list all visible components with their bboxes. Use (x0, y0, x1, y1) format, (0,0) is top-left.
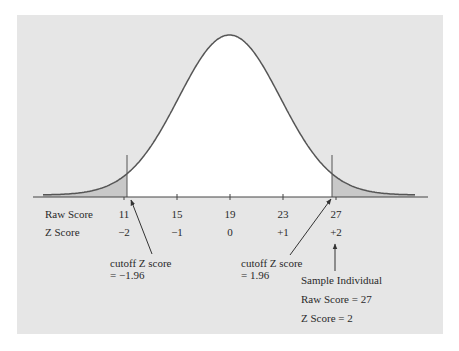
raw-tick-27: 27 (331, 208, 343, 220)
sample-z-score: Z Score = 2 (301, 312, 353, 324)
sample-raw-score: Raw Score = 27 (301, 293, 372, 305)
z-tick-0: 0 (227, 226, 233, 238)
raw-tick-19: 19 (225, 208, 237, 220)
z-score-row-label: Z Score (45, 226, 80, 238)
sample-individual-title: Sample Individual (301, 274, 382, 286)
z-tick-pos1: +1 (277, 226, 289, 238)
raw-score-row-label: Raw Score (45, 208, 93, 220)
left-cutoff-label: cutoff Z score (110, 257, 172, 269)
z-tick-neg2: −2 (118, 226, 130, 238)
raw-tick-23: 23 (278, 208, 290, 220)
raw-tick-11: 11 (119, 208, 130, 220)
z-tick-pos2: +2 (330, 226, 342, 238)
raw-tick-15: 15 (172, 208, 184, 220)
right-cutoff-value: = 1.96 (241, 269, 270, 281)
z-tick-neg1: −1 (171, 226, 183, 238)
right-cutoff-label: cutoff Z score (241, 257, 303, 269)
normal-distribution-figure: Raw Score Z Score 11 15 19 23 27 −2 −1 0… (0, 0, 459, 351)
left-cutoff-value: = −1.96 (110, 269, 145, 281)
